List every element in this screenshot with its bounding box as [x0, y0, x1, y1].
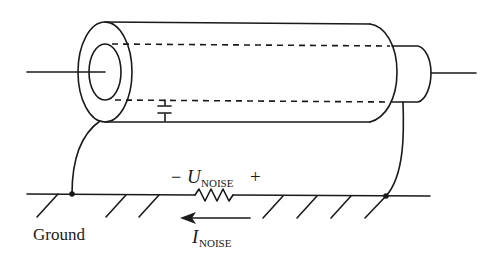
coax-ground-loop-diagram: Ground − U NOISE + I NOISE [0, 0, 493, 274]
inner-conductor-top-hidden [112, 44, 390, 46]
cable-top-edge [105, 22, 370, 24]
noise-current-arrow-icon [180, 212, 250, 224]
inner-conductor-bottom-hidden [115, 100, 390, 102]
left-ground-wire [72, 121, 100, 194]
ground-hatching [37, 194, 386, 218]
coax-cable [78, 22, 431, 122]
svg-text:NOISE: NOISE [201, 177, 234, 189]
noise-voltage-label: − U NOISE + [171, 166, 261, 189]
svg-text:+: + [250, 166, 261, 187]
noise-current-label: I NOISE [191, 226, 232, 249]
svg-text:U: U [187, 166, 202, 187]
svg-text:NOISE: NOISE [199, 237, 232, 249]
ground-plane-right [233, 195, 430, 196]
ground-plane-left [27, 194, 195, 195]
svg-text:−: − [171, 167, 181, 187]
right-ground-wire [386, 102, 403, 196]
ground-resistor-icon [195, 189, 233, 201]
cable-back-end [370, 24, 397, 122]
exposed-inner-conductor [392, 46, 431, 102]
ground-label: Ground [33, 225, 85, 244]
stray-capacitance-icon [158, 100, 171, 121]
